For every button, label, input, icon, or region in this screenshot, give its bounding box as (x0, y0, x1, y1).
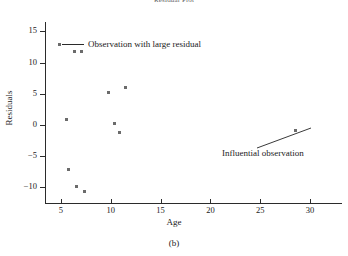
y-tick-mark (40, 31, 45, 32)
data-point (83, 190, 86, 193)
plot-area (46, 22, 325, 203)
legend-leader-line (62, 44, 84, 45)
x-tick-label: 15 (149, 205, 173, 215)
data-point (80, 50, 83, 53)
x-axis-line (45, 203, 342, 204)
annotation-influential-observation: Influential observation (222, 148, 304, 158)
x-tick-label: 20 (198, 205, 222, 215)
data-point (118, 131, 121, 134)
legend-label-large-residual: Observation with large residual (88, 39, 201, 49)
data-point (124, 86, 127, 89)
x-axis-title: Age (0, 217, 348, 227)
figure-title: Residual Plot (0, 0, 348, 4)
x-tick-label: 5 (49, 205, 73, 215)
y-tick-label: −10 (15, 181, 37, 191)
y-tick-mark (40, 156, 45, 157)
influential-observation-leader-line (255, 128, 313, 150)
y-tick-label: 10 (15, 57, 37, 67)
data-point (75, 185, 78, 188)
residual-plot-figure: Residual Plot Residuals Age 151050−5−10 … (0, 0, 348, 256)
x-tick-label: 30 (298, 205, 322, 215)
y-tick-label: 5 (15, 88, 37, 98)
y-axis-title: Residuals (4, 75, 14, 141)
y-tick-mark (40, 125, 45, 126)
y-tick-label: 15 (15, 25, 37, 35)
data-point (73, 50, 76, 53)
legend: Observation with large residual (58, 39, 201, 49)
x-tick-label: 10 (99, 205, 123, 215)
figure-caption: (b) (0, 238, 348, 248)
y-tick-label: 0 (15, 119, 37, 129)
y-tick-mark (40, 94, 45, 95)
data-point (113, 122, 116, 125)
y-tick-label: −5 (15, 150, 37, 160)
y-tick-mark (40, 63, 45, 64)
x-tick-label: 25 (248, 205, 272, 215)
legend-marker-icon (58, 43, 61, 46)
data-point (65, 118, 68, 121)
data-point (294, 129, 297, 132)
data-point (67, 168, 70, 171)
y-tick-mark (40, 187, 45, 188)
data-point (107, 91, 110, 94)
